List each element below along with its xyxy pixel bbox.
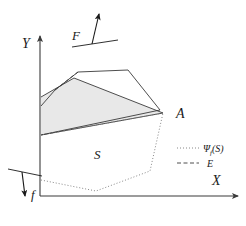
legend-psi-suffix: (S) bbox=[212, 143, 224, 155]
force-F-label: F bbox=[71, 28, 81, 43]
force-F-arrow bbox=[92, 14, 99, 44]
legend-label-psi-s: Ψf(S) bbox=[203, 143, 224, 157]
vertex-A-label: A bbox=[175, 106, 185, 121]
figure-root: Y X A S F f Ψf(S) E bbox=[0, 0, 246, 226]
geometry-diagram: Y X A S F f Ψf(S) E bbox=[0, 0, 246, 226]
force-f-baseline bbox=[8, 169, 42, 176]
region-S-label: S bbox=[94, 147, 101, 162]
force-f-label: f bbox=[31, 187, 37, 202]
legend-label-e-set: E bbox=[206, 158, 213, 169]
force-f-arrow bbox=[22, 172, 25, 196]
x-axis-label: X bbox=[211, 173, 221, 188]
y-axis-label: Y bbox=[22, 36, 32, 51]
